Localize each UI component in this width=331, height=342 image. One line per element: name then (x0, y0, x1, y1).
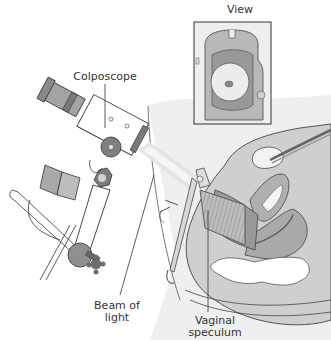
view-inset (194, 22, 271, 124)
label-colposcope: Colposcope (70, 71, 140, 83)
colposcope (10, 77, 151, 280)
label-speculum-line2: speculum (180, 327, 250, 339)
cross-knob (85, 251, 105, 275)
label-beam-of-light: Beam of light (87, 300, 147, 324)
label-beam-line2: light (87, 312, 147, 324)
label-vaginal-speculum: Vaginal speculum (180, 315, 250, 339)
colposcopy-illustration (0, 0, 331, 342)
label-view: View (220, 4, 260, 16)
